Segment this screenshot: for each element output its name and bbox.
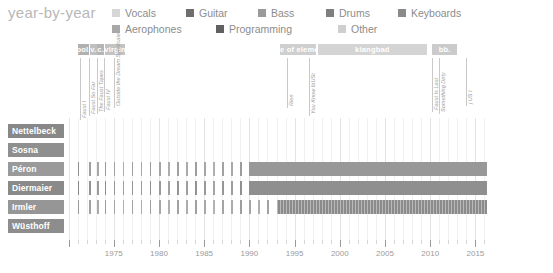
activity-tick[interactable] <box>132 200 134 214</box>
record-label-band[interactable]: c. <box>97 44 103 55</box>
activity-bar[interactable] <box>277 200 487 214</box>
legend-item-programming[interactable]: Programming <box>216 24 338 34</box>
activity-tick[interactable] <box>195 162 197 176</box>
activity-tick[interactable] <box>123 162 125 176</box>
legend-item-aerophones[interactable]: Aerophones <box>112 24 216 34</box>
activity-tick[interactable] <box>168 181 170 195</box>
activity-tick[interactable] <box>195 181 197 195</box>
activity-tick[interactable] <box>150 181 152 195</box>
row-label-irmler[interactable]: Irmler <box>8 200 64 214</box>
activity-tick[interactable] <box>123 200 125 214</box>
activity-tick[interactable] <box>231 181 233 195</box>
activity-tick[interactable] <box>204 162 206 176</box>
activity-tick[interactable] <box>132 162 134 176</box>
legend-item-vocals[interactable]: Vocals <box>112 8 186 18</box>
legend-item-bass[interactable]: Bass <box>258 8 326 18</box>
activity-tick[interactable] <box>150 200 152 214</box>
row-label-nettelbeck[interactable]: Nettelbeck <box>8 124 64 138</box>
activity-tick[interactable] <box>213 162 215 176</box>
activity-tick[interactable] <box>89 200 91 214</box>
activity-tick[interactable] <box>249 200 251 214</box>
activity-tick[interactable] <box>213 181 215 195</box>
activity-tick[interactable] <box>204 181 206 195</box>
activity-tick[interactable] <box>222 200 224 214</box>
legend-item-guitar[interactable]: Guitar <box>186 8 258 18</box>
activity-tick[interactable] <box>213 200 215 214</box>
axis-tick-minor <box>421 240 422 244</box>
activity-tick[interactable] <box>231 200 233 214</box>
activity-tick[interactable] <box>141 200 143 214</box>
activity-tick[interactable] <box>105 200 107 214</box>
activity-tick[interactable] <box>89 162 91 176</box>
activity-tick[interactable] <box>258 200 260 214</box>
activity-tick[interactable] <box>114 162 116 176</box>
record-label-band[interactable]: bb. <box>432 44 457 55</box>
activity-tick[interactable] <box>186 162 188 176</box>
row-label-wüsthoff[interactable]: Wüsthoff <box>8 219 64 233</box>
activity-bar[interactable] <box>249 162 487 176</box>
axis-tick-minor <box>286 240 287 244</box>
axis-tick-minor <box>168 240 169 244</box>
legend-item-keyboards[interactable]: Keyboards <box>398 8 488 18</box>
activity-tick[interactable] <box>177 200 179 214</box>
activity-tick[interactable] <box>114 200 116 214</box>
activity-tick[interactable] <box>222 181 224 195</box>
activity-tick[interactable] <box>177 181 179 195</box>
legend-item-other[interactable]: Other <box>338 24 408 34</box>
activity-tick[interactable] <box>204 200 206 214</box>
activity-tick[interactable] <box>114 181 116 195</box>
activity-tick[interactable] <box>89 181 91 195</box>
axis-tick-minor <box>258 240 259 244</box>
record-label-band[interactable]: klangbad <box>318 44 427 55</box>
activity-tick[interactable] <box>240 162 242 176</box>
activity-tick[interactable] <box>132 181 134 195</box>
album-title-label: Faust Is Last <box>433 78 439 110</box>
gridline-minor <box>448 118 449 240</box>
row-label-diermaier[interactable]: Diermaier <box>8 181 64 195</box>
axis-tick-label: 2005 <box>376 249 394 258</box>
row-label-péron[interactable]: Péron <box>8 162 64 176</box>
activity-bar[interactable] <box>249 181 487 195</box>
axis-tick-major <box>249 240 250 247</box>
activity-tick[interactable] <box>78 200 80 214</box>
activity-tick[interactable] <box>267 200 269 214</box>
axis-tick-minor <box>403 240 404 244</box>
legend-item-drums[interactable]: Drums <box>326 8 398 18</box>
activity-tick[interactable] <box>78 162 80 176</box>
activity-tick[interactable] <box>177 162 179 176</box>
activity-tick[interactable] <box>150 162 152 176</box>
activity-tick[interactable] <box>97 200 99 214</box>
record-label-band[interactable]: pol. <box>78 44 90 55</box>
axis-tick-minor <box>150 240 151 244</box>
activity-tick[interactable] <box>141 162 143 176</box>
activity-tick[interactable] <box>186 200 188 214</box>
activity-tick[interactable] <box>159 200 161 214</box>
activity-tick[interactable] <box>159 162 161 176</box>
activity-tick[interactable] <box>240 200 242 214</box>
activity-tick[interactable] <box>105 181 107 195</box>
activity-tick[interactable] <box>159 181 161 195</box>
activity-tick[interactable] <box>97 181 99 195</box>
legend-label: Drums <box>339 8 370 18</box>
activity-tick[interactable] <box>195 200 197 214</box>
gridline-minor <box>186 118 187 240</box>
activity-tick[interactable] <box>97 162 99 176</box>
activity-tick[interactable] <box>78 181 80 195</box>
axis-tick-minor <box>267 240 268 244</box>
activity-tick[interactable] <box>168 200 170 214</box>
activity-tick[interactable] <box>240 181 242 195</box>
activity-tick[interactable] <box>186 181 188 195</box>
activity-tick[interactable] <box>141 181 143 195</box>
activity-tick[interactable] <box>105 162 107 176</box>
record-label-band[interactable]: table of elements <box>280 44 316 55</box>
record-label-band[interactable]: v. <box>90 44 96 55</box>
axis-tick-label: 2015 <box>467 249 485 258</box>
row-label-sosna[interactable]: Sosna <box>8 143 64 157</box>
gridline-minor <box>313 118 314 240</box>
gridline-major <box>340 118 341 240</box>
activity-tick[interactable] <box>222 162 224 176</box>
activity-tick[interactable] <box>231 162 233 176</box>
axis-tick-major <box>114 240 115 247</box>
activity-tick[interactable] <box>168 162 170 176</box>
activity-tick[interactable] <box>123 181 125 195</box>
